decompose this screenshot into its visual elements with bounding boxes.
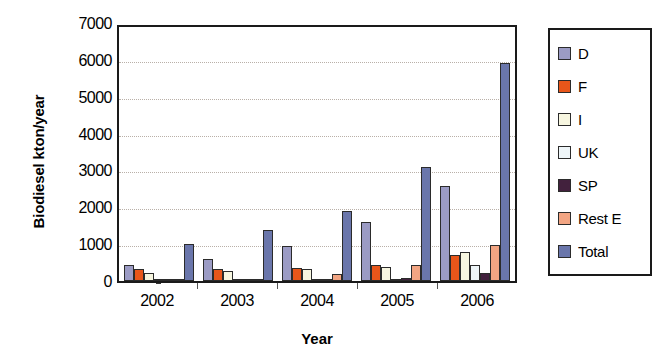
bar-i-2003[interactable] [223, 271, 233, 281]
legend-item-sp[interactable]: SP [558, 169, 650, 202]
bar-sp-2004[interactable] [322, 279, 332, 281]
legend-label: F [578, 78, 587, 95]
legend-swatch-icon [558, 212, 571, 225]
y-tick-label: 2000 [46, 200, 112, 216]
legend-swatch-icon [558, 80, 571, 93]
bar-f-2005[interactable] [371, 265, 381, 281]
legend-swatch-icon [558, 47, 571, 60]
bar-f-2002[interactable] [134, 269, 144, 281]
bar-f-2003[interactable] [213, 269, 223, 281]
legend-item-f[interactable]: F [558, 70, 650, 103]
x-tick-mark [357, 283, 358, 289]
bar-rest-e-2002[interactable] [174, 279, 184, 281]
bar-d-2004[interactable] [282, 246, 292, 281]
bar-i-2006[interactable] [460, 252, 470, 281]
bar-i-2002[interactable] [144, 273, 154, 281]
bar-i-2004[interactable] [302, 269, 312, 281]
bar-sp-2005[interactable] [401, 278, 411, 281]
y-tick-label: 5000 [46, 90, 112, 106]
bar-groups [119, 27, 515, 281]
bar-f-2004[interactable] [292, 268, 302, 281]
y-tick-label: 0 [46, 274, 112, 290]
x-tick-label-2005: 2005 [357, 292, 437, 310]
bar-total-2004[interactable] [342, 211, 352, 281]
legend-label: SP [578, 177, 597, 194]
bar-sp-2003[interactable] [243, 279, 253, 281]
bar-uk-2006[interactable] [470, 265, 480, 281]
y-tick-label: 3000 [46, 163, 112, 179]
x-tick-mark [437, 283, 438, 289]
plot-area [117, 25, 517, 283]
bar-d-2003[interactable] [203, 259, 213, 281]
legend-item-uk[interactable]: UK [558, 136, 650, 169]
bar-total-2002[interactable] [184, 244, 194, 281]
bar-d-2005[interactable] [361, 222, 371, 281]
bar-i-2005[interactable] [381, 267, 391, 281]
legend-swatch-icon [558, 179, 571, 192]
bar-rest-e-2004[interactable] [332, 274, 342, 281]
bar-rest-e-2005[interactable] [411, 265, 421, 281]
legend-label: I [578, 111, 582, 128]
y-tick-label: 4000 [46, 127, 112, 143]
legend-item-total[interactable]: Total [558, 235, 650, 268]
bar-rest-e-2003[interactable] [253, 279, 263, 281]
legend-item-i[interactable]: I [558, 103, 650, 136]
bar-group-2002 [124, 27, 194, 281]
x-tick-label-2006: 2006 [437, 292, 517, 310]
bar-group-2006 [440, 27, 510, 281]
y-tick-label: 1000 [46, 237, 112, 253]
bar-uk-2003[interactable] [233, 279, 243, 281]
x-tick-label-2003: 2003 [197, 292, 277, 310]
legend-label: D [578, 45, 589, 62]
legend: DFIUKSPRest ETotal [548, 28, 652, 276]
legend-label: UK [578, 144, 598, 161]
bar-group-2005 [361, 27, 431, 281]
bar-d-2002[interactable] [124, 265, 134, 281]
bar-group-2003 [203, 27, 273, 281]
legend-swatch-icon [558, 146, 571, 159]
bar-sp-2006[interactable] [480, 273, 490, 281]
x-tick-label-2002: 2002 [117, 292, 197, 310]
bar-group-2004 [282, 27, 352, 281]
bar-rest-e-2006[interactable] [490, 245, 500, 281]
bar-total-2005[interactable] [421, 167, 431, 281]
legend-item-d[interactable]: D [558, 37, 650, 70]
chart-figure: Biodiesel kton/year 01000200030004000500… [0, 0, 664, 364]
legend-swatch-icon [558, 113, 571, 126]
bar-total-2003[interactable] [263, 230, 273, 281]
bar-f-2006[interactable] [450, 255, 460, 281]
bar-total-2006[interactable] [500, 63, 510, 281]
bar-uk-2005[interactable] [391, 279, 401, 281]
legend-label: Rest E [578, 210, 621, 227]
bar-uk-2004[interactable] [312, 279, 322, 281]
x-tick-mark [197, 283, 198, 289]
bar-sp-2002[interactable] [164, 279, 174, 281]
y-axis-ticks: 01000200030004000500060007000 [44, 0, 112, 364]
y-tick-label: 7000 [46, 16, 112, 32]
legend-item-rest-e[interactable]: Rest E [558, 202, 650, 235]
x-tick-mark [277, 283, 278, 289]
bar-d-2006[interactable] [440, 186, 450, 281]
legend-label: Total [578, 243, 608, 260]
legend-swatch-icon [558, 245, 571, 258]
bar-uk-2002[interactable] [154, 279, 164, 281]
y-tick-label: 6000 [46, 53, 112, 69]
x-tick-label-2004: 2004 [277, 292, 357, 310]
x-axis-title: Year [117, 330, 517, 347]
y-tick-mark [156, 283, 161, 284]
